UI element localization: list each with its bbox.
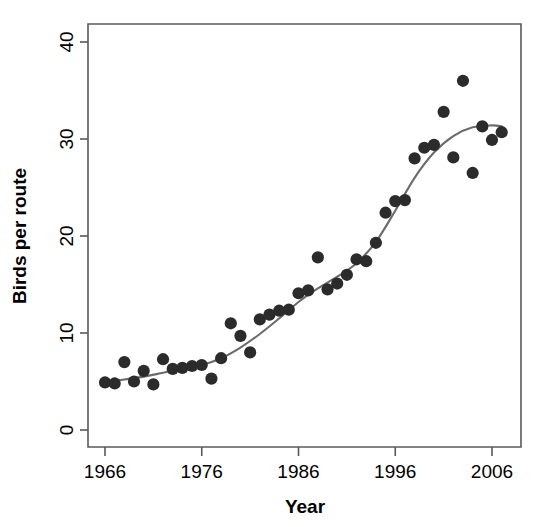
data-point: [399, 194, 411, 206]
data-point: [128, 375, 140, 387]
data-point: [234, 330, 246, 342]
data-points-group: [99, 75, 508, 391]
x-tick-label: 2006: [471, 461, 513, 482]
chart-figure: 010203040 19661976198619962006 Birds per…: [0, 0, 536, 527]
data-point: [409, 152, 421, 164]
data-point: [457, 75, 469, 87]
y-tick-label: 0: [56, 425, 77, 436]
y-axis-tick-labels: 010203040: [56, 31, 77, 435]
trend-curve-group: [105, 125, 502, 382]
scatter-plot-svg: 010203040 19661976198619962006 Birds per…: [0, 0, 536, 527]
data-point: [196, 359, 208, 371]
data-point: [147, 378, 159, 390]
data-point: [341, 269, 353, 281]
x-axis-ticks: [105, 447, 492, 456]
x-tick-label: 1986: [277, 461, 319, 482]
data-point: [360, 255, 372, 267]
data-point: [476, 120, 488, 132]
data-point: [486, 134, 498, 146]
data-point: [118, 356, 130, 368]
x-tick-label: 1966: [84, 461, 126, 482]
data-point: [283, 304, 295, 316]
x-axis-tick-labels: 19661976198619962006: [84, 461, 513, 482]
data-point: [157, 353, 169, 365]
data-point: [428, 139, 440, 151]
data-point: [467, 167, 479, 179]
data-point: [205, 372, 217, 384]
data-point: [302, 284, 314, 296]
trend-curve: [105, 125, 502, 382]
data-point: [379, 207, 391, 219]
y-tick-label: 30: [56, 128, 77, 149]
data-point: [438, 106, 450, 118]
data-point: [109, 377, 121, 389]
y-axis-ticks: [80, 42, 88, 430]
x-tick-label: 1996: [374, 461, 416, 482]
data-point: [370, 237, 382, 249]
x-tick-label: 1976: [181, 461, 223, 482]
data-point: [331, 277, 343, 289]
y-tick-label: 20: [56, 225, 77, 246]
data-point: [138, 365, 150, 377]
data-point: [225, 317, 237, 329]
data-point: [215, 352, 227, 364]
data-point: [447, 151, 459, 163]
data-point: [496, 126, 508, 138]
y-tick-label: 10: [56, 322, 77, 343]
data-point: [244, 346, 256, 358]
y-axis-title: Birds per route: [9, 168, 30, 304]
data-point: [312, 251, 324, 263]
x-axis-title: Year: [285, 496, 326, 517]
y-tick-label: 40: [56, 31, 77, 52]
